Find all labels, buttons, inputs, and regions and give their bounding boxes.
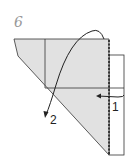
arrow-2-label: 2 <box>50 113 57 127</box>
arrow-1-label: 1 <box>112 100 119 114</box>
origami-diagram <box>0 0 132 157</box>
paper-front <box>14 39 109 155</box>
